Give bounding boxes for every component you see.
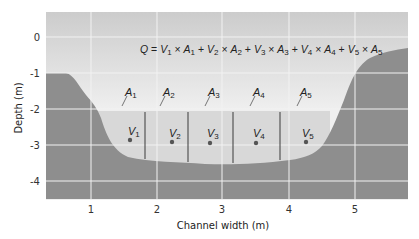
y-tick-minus-1: -1	[30, 68, 40, 79]
x-axis-label: Channel width (m)	[177, 220, 270, 231]
y-tick-minus-2: -2	[30, 104, 40, 115]
y-tick-minus-3: -3	[30, 140, 40, 151]
x-tick-2: 2	[154, 204, 160, 215]
velocity-point-3	[208, 141, 212, 145]
x-tick-1: 1	[88, 204, 94, 215]
x-axis-ticks: 1 2 3 4 5	[88, 204, 358, 215]
y-axis-label: Depth (m)	[13, 82, 24, 133]
y-tick-0: 0	[34, 32, 40, 43]
velocity-point-1	[128, 138, 132, 142]
velocity-point-5	[304, 140, 308, 144]
y-axis-ticks: 0 -1 -2 -3 -4	[30, 32, 40, 187]
velocity-point-4	[254, 141, 258, 145]
x-tick-3: 3	[219, 204, 225, 215]
velocity-point-2	[170, 140, 174, 144]
channel-cross-section-diagram: A1 A2 A3 A4 A5 V1 V2 V3 V4 V5 Q = V1 × A…	[0, 0, 419, 239]
x-tick-4: 4	[286, 204, 292, 215]
y-tick-minus-4: -4	[30, 176, 40, 187]
x-tick-5: 5	[352, 204, 358, 215]
